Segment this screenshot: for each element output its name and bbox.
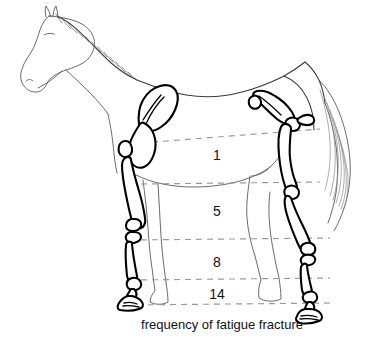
horse-ear-left-outline [45, 6, 51, 17]
horse-offside-foreleg-outline [143, 180, 168, 304]
horse-fatigue-fracture-diagram: 1 5 8 14 frequency of fatigue fracture [0, 0, 372, 345]
band-label-5: 5 [213, 203, 221, 219]
bone-humerus [129, 123, 156, 168]
bone-trochanter [298, 115, 315, 125]
band-label-14: 14 [209, 286, 225, 302]
figure-caption: frequency of fatigue fracture [141, 317, 303, 332]
horse-chest-line [108, 114, 117, 173]
bone-elbow-olecranon [119, 141, 132, 157]
horse-head-outline [21, 16, 95, 92]
hindleg-skeleton-group [249, 91, 322, 324]
horse-brow-line [44, 33, 54, 35]
band-label-8: 8 [213, 254, 221, 270]
figure-container: 1 5 8 14 frequency of fatigue fracture [0, 0, 372, 345]
band-label-1: 1 [213, 147, 221, 163]
horse-nostril [26, 80, 33, 82]
horse-tail-hair-group [320, 90, 348, 211]
bone-carpus-upper [126, 219, 141, 231]
bone-femur [278, 124, 297, 193]
bone-hock-upper [301, 243, 316, 256]
bone-hoof-front [118, 296, 143, 311]
foreleg-skeleton-group [118, 85, 178, 310]
horse-neck-underline [66, 70, 108, 114]
bone-ischium [249, 96, 261, 109]
horse-mane-hair-group [56, 14, 137, 80]
horse-offside-thigh-outline [252, 167, 270, 176]
